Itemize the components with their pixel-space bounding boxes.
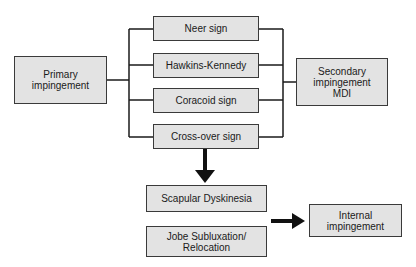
cross-over-sign-node: Cross-over sign (153, 124, 259, 149)
down-arrow-icon (195, 149, 215, 183)
neer-sign-node: Neer sign (153, 16, 259, 41)
secondary-impingement-node: Secondary impingement MDI (296, 58, 388, 106)
internal-impingement-node: Internal impingement (309, 204, 402, 237)
jobe-subluxation-node: Jobe Subluxation/ Relocation (146, 226, 267, 257)
node-label: Internal impingement (327, 210, 384, 232)
node-label: Scapular Dyskinesia (161, 193, 252, 204)
node-label: Coracoid sign (175, 95, 236, 106)
scapular-dyskinesia-node: Scapular Dyskinesia (146, 185, 267, 212)
node-label: Neer sign (185, 23, 228, 34)
node-label: Primary impingement (32, 69, 89, 91)
right-arrow-icon (271, 213, 305, 229)
coracoid-sign-node: Coracoid sign (153, 88, 259, 113)
node-label: Secondary impingement MDI (313, 66, 370, 99)
primary-impingement-node: Primary impingement (14, 56, 107, 104)
node-label: Cross-over sign (171, 131, 241, 142)
diagram-canvas: Primary impingement Neer sign Hawkins-Ke… (0, 0, 416, 267)
node-label: Hawkins-Kennedy (166, 60, 247, 71)
node-label: Jobe Subluxation/ Relocation (167, 231, 247, 253)
hawkins-kennedy-node: Hawkins-Kennedy (153, 53, 259, 78)
